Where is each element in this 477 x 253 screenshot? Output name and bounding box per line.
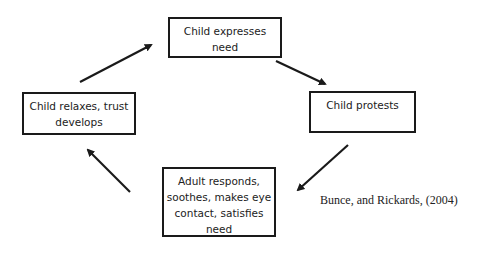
node-child-expresses-need: Child expresses need [168, 17, 282, 58]
node-child-relaxes: Child relaxes, trust develops [22, 92, 136, 135]
node-line: need [206, 221, 232, 237]
node-line: need [212, 39, 238, 55]
node-line: Child protests [326, 97, 399, 113]
node-child-protests: Child protests [309, 91, 416, 133]
arrow-right-to-bottom [298, 145, 348, 190]
node-line: Adult responds, [178, 173, 260, 189]
arrow-bottom-to-left [88, 150, 130, 192]
node-line: Child expresses [184, 23, 266, 39]
node-line: Child relaxes, trust [30, 98, 129, 114]
arrow-top-to-right [276, 61, 325, 84]
citation: Bunce, and Rickards, (2004) [320, 193, 458, 208]
node-adult-responds: Adult responds, soothes, makes eye conta… [162, 167, 276, 237]
node-line: develops [55, 114, 102, 130]
arrow-left-to-top [80, 45, 151, 82]
node-line: contact, satisfies [175, 205, 264, 221]
node-line: soothes, makes eye [167, 189, 271, 205]
